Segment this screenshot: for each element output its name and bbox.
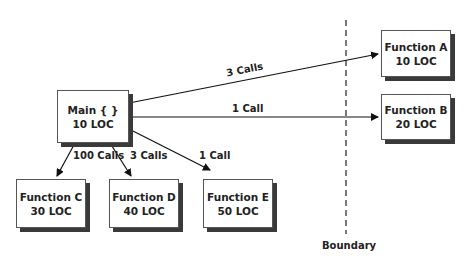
boundary-label: Boundary xyxy=(322,240,376,251)
node-e-name: Function E xyxy=(207,190,269,204)
node-function-d: Function D 40 LOC xyxy=(109,179,179,228)
node-function-b: Function B 20 LOC xyxy=(381,94,451,140)
node-function-e: Function E 50 LOC xyxy=(203,179,273,228)
node-b-loc: 20 LOC xyxy=(395,117,436,131)
edge-label-main-d: 3 Calls xyxy=(130,150,167,161)
edge-label-main-b: 1 Call xyxy=(232,103,263,114)
node-c-loc: 30 LOC xyxy=(30,204,71,218)
edge-label-main-e: 1 Call xyxy=(199,150,230,161)
node-main-name: Main { } xyxy=(68,103,119,117)
node-function-c: Function C 30 LOC xyxy=(16,179,86,228)
node-d-name: Function D xyxy=(112,190,176,204)
node-main: Main { } 10 LOC xyxy=(57,90,129,143)
node-a-name: Function A xyxy=(385,40,448,54)
node-a-loc: 10 LOC xyxy=(395,54,436,68)
node-b-name: Function B xyxy=(385,103,448,117)
node-function-a: Function A 10 LOC xyxy=(381,30,451,77)
node-d-loc: 40 LOC xyxy=(123,204,164,218)
edge-label-main-c: 100 Calls xyxy=(73,150,124,161)
node-c-name: Function C xyxy=(20,190,83,204)
node-e-loc: 50 LOC xyxy=(217,204,258,218)
node-main-loc: 10 LOC xyxy=(72,117,113,131)
